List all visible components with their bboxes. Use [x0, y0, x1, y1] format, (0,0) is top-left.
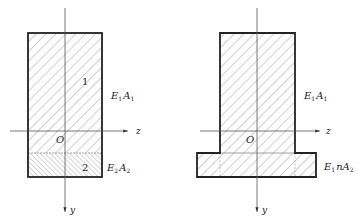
stem-stiffness-label: E1A1 — [303, 90, 327, 102]
y-axis-label: y — [69, 205, 76, 215]
flange-stiffness-label: E1nA2 — [323, 161, 354, 173]
y-axis-label: y — [261, 205, 268, 215]
origin-label: O — [56, 134, 64, 145]
figure-right: O z y E1A1 E1nA2 — [197, 8, 354, 215]
region-2-stiffness-label: E2A2 — [106, 162, 130, 174]
region-2-number: 2 — [82, 162, 88, 173]
origin-label: O — [246, 134, 254, 145]
stem-hatch — [220, 33, 295, 153]
figure-left: 1 2 O z y E1A1 E2A2 — [10, 8, 141, 215]
z-axis-label: z — [135, 126, 141, 136]
region-1-stiffness-label: E1A1 — [110, 90, 134, 102]
flange-hatch — [197, 153, 316, 177]
z-axis-label: z — [325, 126, 331, 136]
region-1-number: 1 — [82, 76, 88, 87]
composite-beam-diagram: 1 2 O z y E1A1 E2A2 O z y E1A1 E1nA2 — [0, 0, 358, 222]
